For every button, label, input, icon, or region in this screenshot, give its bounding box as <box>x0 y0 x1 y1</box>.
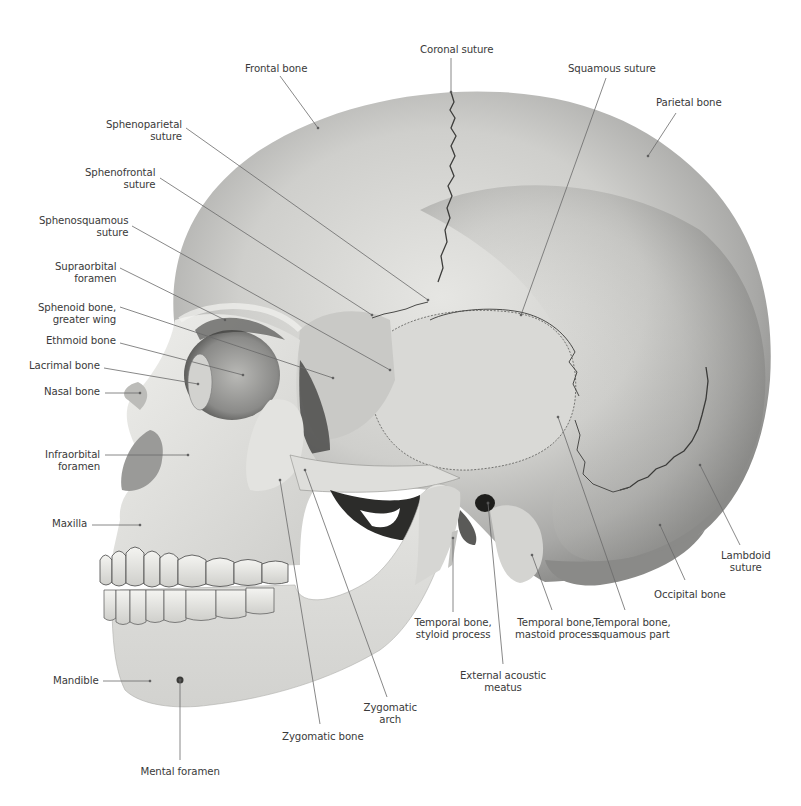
leader-anchor-dot <box>332 377 334 379</box>
leader-anchor-dot <box>647 155 649 157</box>
leader-anchor-dot <box>279 479 281 481</box>
leader-anchor-dot <box>699 464 701 466</box>
label-sphenoparietal-suture: Sphenoparietalsuture <box>106 119 182 143</box>
label-text-line: Sphenoparietal <box>106 119 182 131</box>
leader-anchor-dot <box>317 127 319 129</box>
leader-anchor-dot <box>452 537 454 539</box>
label-mandible: Mandible <box>53 675 99 687</box>
label-text-line: Mandible <box>53 675 99 687</box>
skull-lateral-view-figure: Frontal boneCoronal sutureSquamous sutur… <box>0 0 801 806</box>
label-text-line: Infraorbital <box>45 449 100 461</box>
label-text-line: Sphenosquamous <box>39 215 128 227</box>
label-text-line: Lacrimal bone <box>29 360 100 372</box>
label-frontal-bone: Frontal bone <box>245 63 307 75</box>
label-text-line: Zygomatic <box>364 702 417 714</box>
label-text-line: styloid process <box>415 629 492 641</box>
label-text-line: Sphenofrontal <box>85 167 155 179</box>
label-text-line: foramen <box>45 461 100 473</box>
label-zygomatic-arch: Zygomaticarch <box>364 702 417 726</box>
leader-anchor-dot <box>224 319 226 321</box>
label-temporal-squamous: Temporal bone,squamous part <box>594 617 671 641</box>
temporal-squama <box>368 310 576 470</box>
leader-anchor-dot <box>531 554 533 556</box>
label-text-line: meatus <box>460 682 546 694</box>
label-text-line: External acoustic <box>460 670 546 682</box>
label-external-acoustic-meatus: External acousticmeatus <box>460 670 546 694</box>
label-text-line: suture <box>85 179 155 191</box>
label-text-line: foramen <box>55 273 116 285</box>
label-nasal-bone: Nasal bone <box>44 386 100 398</box>
leader-anchor-dot <box>427 299 429 301</box>
label-text-line: Ethmoid bone <box>46 335 116 347</box>
label-coronal-suture: Coronal suture <box>420 44 493 56</box>
label-supraorbital-foramen: Supraorbitalforamen <box>55 261 116 285</box>
label-sphenofrontal-suture: Sphenofrontalsuture <box>85 167 155 191</box>
leader-anchor-dot <box>139 524 141 526</box>
label-text-line: Parietal bone <box>656 97 722 109</box>
label-mental-foramen: Mental foramen <box>141 766 220 778</box>
label-sphenosquamous-suture: Sphenosquamoussuture <box>39 215 128 239</box>
label-text-line: arch <box>364 714 417 726</box>
label-text-line: greater wing <box>38 314 116 326</box>
label-text-line: mastoid process <box>515 629 597 641</box>
external-acoustic-meatus-hole <box>475 494 495 512</box>
leader-anchor-dot <box>557 416 559 418</box>
label-infraorbital-foramen: Infraorbitalforamen <box>45 449 100 473</box>
label-text-line: Temporal bone, <box>415 617 492 629</box>
label-maxilla: Maxilla <box>52 518 87 530</box>
leader-anchor-dot <box>487 502 489 504</box>
label-text-line: suture <box>106 131 182 143</box>
leader-anchor-dot <box>179 679 181 681</box>
label-text-line: Lambdoid <box>721 550 771 562</box>
label-ethmoid-bone: Ethmoid bone <box>46 335 116 347</box>
leader-anchor-dot <box>187 454 189 456</box>
label-text-line: Supraorbital <box>55 261 116 273</box>
label-text-line: Nasal bone <box>44 386 100 398</box>
leader-anchor-dot <box>242 374 244 376</box>
label-lacrimal-bone: Lacrimal bone <box>29 360 100 372</box>
label-sphenoid-greater-wing: Sphenoid bone,greater wing <box>38 302 116 326</box>
label-text-line: Maxilla <box>52 518 87 530</box>
label-text-line: Occipital bone <box>654 589 726 601</box>
leader-anchor-dot <box>450 91 452 93</box>
label-text-line: Mental foramen <box>141 766 220 778</box>
label-text-line: Temporal bone, <box>515 617 597 629</box>
label-text-line: suture <box>39 227 128 239</box>
label-zygomatic-bone: Zygomatic bone <box>282 731 364 743</box>
label-temporal-styloid: Temporal bone,styloid process <box>415 617 492 641</box>
leader-anchor-dot <box>371 314 373 316</box>
label-temporal-mastoid: Temporal bone,mastoid process <box>515 617 597 641</box>
leader-anchor-dot <box>304 469 306 471</box>
label-lambdoid-suture: Lambdoidsuture <box>721 550 771 574</box>
leader-anchor-dot <box>139 392 141 394</box>
leader-line-frontal-bone <box>280 76 318 128</box>
label-text-line: suture <box>721 562 771 574</box>
label-text-line: Zygomatic bone <box>282 731 364 743</box>
leader-anchor-dot <box>149 680 151 682</box>
label-parietal-bone: Parietal bone <box>656 97 722 109</box>
label-text-line: Sphenoid bone, <box>38 302 116 314</box>
label-squamous-suture: Squamous suture <box>568 63 656 75</box>
label-text-line: squamous part <box>594 629 671 641</box>
leader-anchor-dot <box>389 369 391 371</box>
leader-anchor-dot <box>520 314 522 316</box>
label-text-line: Squamous suture <box>568 63 656 75</box>
label-text-line: Coronal suture <box>420 44 493 56</box>
label-text-line: Frontal bone <box>245 63 307 75</box>
leader-anchor-dot <box>659 524 661 526</box>
label-occipital-bone: Occipital bone <box>654 589 726 601</box>
label-text-line: Temporal bone, <box>594 617 671 629</box>
leader-anchor-dot <box>197 383 199 385</box>
